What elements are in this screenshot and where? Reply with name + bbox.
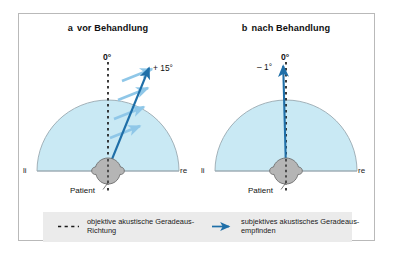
motion-arrow-2: [118, 88, 148, 100]
legend-item-subjective: subjektives akustisches Geradeaus- empfi…: [211, 217, 361, 236]
blue-arrow-key-icon: [211, 218, 237, 229]
panel-a-vor-behandlung: avor Behandlung: [19, 14, 197, 204]
patient-label-b: Patient: [248, 186, 273, 195]
panel-b-diagram: [197, 14, 375, 204]
legend-subjective-line2: empfinden: [241, 226, 359, 235]
legend-objective-line1: objektive akustische Geradeaus-: [87, 217, 194, 226]
zero-degree-label-a: 0°: [103, 52, 111, 62]
figure-frame: avor Behandlung: [18, 13, 375, 241]
left-side-label-a: li: [23, 166, 27, 175]
legend-item-objective: objektive akustische Geradeaus- Richtung: [57, 217, 207, 236]
right-side-label-b: re: [358, 166, 365, 175]
legend-text-objective: objektive akustische Geradeaus- Richtung: [87, 217, 194, 236]
deviation-label-a: + 15°: [153, 63, 173, 73]
panel-a-diagram: [19, 14, 197, 204]
left-side-label-b: li: [201, 166, 205, 175]
legend-objective-line2: Richtung: [87, 226, 194, 235]
zero-degree-label-b: 0°: [281, 52, 289, 62]
figure-canvas: avor Behandlung: [0, 0, 393, 257]
legend-subjective-line1: subjektives akustisches Geradeaus-: [241, 217, 359, 226]
legend-text-subjective: subjektives akustisches Geradeaus- empfi…: [241, 217, 359, 236]
panel-b-nach-behandlung: bnach Behandlung 0°: [197, 14, 375, 204]
legend: objektive akustische Geradeaus- Richtung: [43, 212, 352, 242]
deviation-label-b: – 1°: [257, 62, 272, 72]
dashed-line-key-icon: [57, 218, 83, 229]
right-side-label-a: re: [180, 166, 187, 175]
patient-label-a: Patient: [70, 186, 95, 195]
